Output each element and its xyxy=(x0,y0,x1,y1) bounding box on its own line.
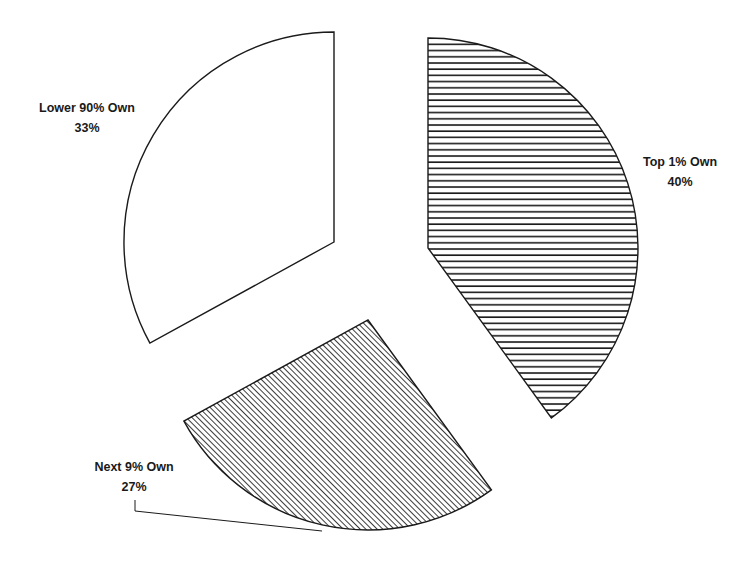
label-top-1-name: Top 1% Own xyxy=(630,152,730,172)
label-next-9-name: Next 9% Own xyxy=(78,457,190,477)
label-next-9-pct: 27% xyxy=(78,477,190,497)
label-top-1: Top 1% Own 40% xyxy=(630,152,730,192)
slice-next-9-percent xyxy=(184,320,492,530)
label-lower-90-name: Lower 90% Own xyxy=(22,98,152,118)
slice-lower-90-percent xyxy=(124,32,334,343)
label-top-1-pct: 40% xyxy=(630,172,730,192)
label-lower-90-pct: 33% xyxy=(22,118,152,138)
label-lower-90: Lower 90% Own 33% xyxy=(22,98,152,138)
slice-top-1-percent xyxy=(428,38,638,418)
label-next-9: Next 9% Own 27% xyxy=(78,457,190,497)
